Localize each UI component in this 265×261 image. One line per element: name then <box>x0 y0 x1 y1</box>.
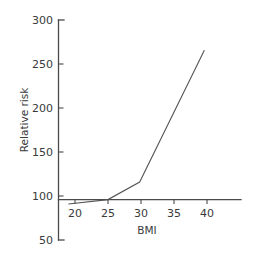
y-tick-label-50: 50 <box>39 234 53 247</box>
y-tick-label-150: 150 <box>32 146 53 159</box>
chart-canvas: 300 250 200 150 100 50 20 25 30 35 40 BM… <box>0 0 265 261</box>
x-tick-label-20: 20 <box>68 207 82 220</box>
y-tick-label-200: 200 <box>32 102 53 115</box>
relative-risk-bmi-chart: 300 250 200 150 100 50 20 25 30 35 40 BM… <box>0 0 265 261</box>
x-tick-label-25: 25 <box>101 207 115 220</box>
y-axis-title: Relative risk <box>18 87 30 152</box>
y-tick-label-300: 300 <box>32 14 53 27</box>
data-series-line <box>68 50 204 204</box>
y-tick-label-250: 250 <box>32 58 53 71</box>
x-tick-label-40: 40 <box>200 207 214 220</box>
x-axis-title: BMI <box>137 224 156 236</box>
x-tick-label-35: 35 <box>167 207 181 220</box>
y-tick-label-100: 100 <box>32 190 53 203</box>
x-tick-label-30: 30 <box>134 207 148 220</box>
